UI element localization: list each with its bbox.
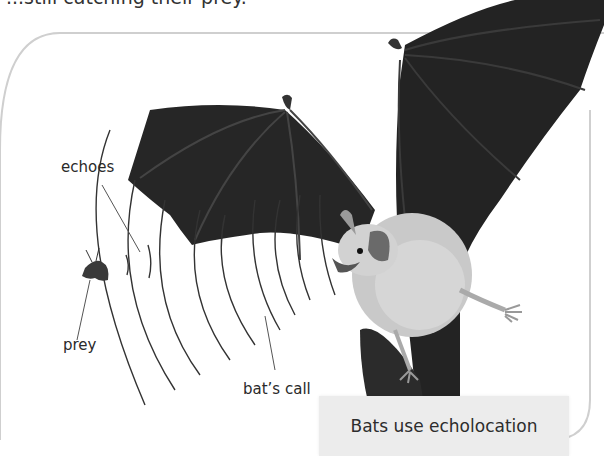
echoes-leader-line	[102, 185, 140, 252]
prey-leader-line	[77, 280, 90, 340]
prey-moth	[82, 248, 108, 281]
caption-text: Bats use echolocation	[319, 416, 569, 436]
label-bats-call: bat’s call	[243, 380, 311, 398]
bats-call-leader-line	[265, 316, 275, 370]
label-prey: prey	[63, 336, 96, 354]
label-echoes: echoes	[61, 158, 114, 176]
bat-left-wing	[128, 95, 375, 260]
caption-box: Bats use echolocation	[319, 396, 569, 456]
frame-border-right	[550, 110, 590, 440]
